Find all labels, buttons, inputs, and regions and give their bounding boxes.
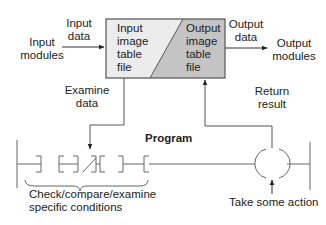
output-modules-line-1: Output bbox=[268, 37, 320, 50]
input-data-line-1: Input bbox=[64, 17, 94, 30]
examine-data-line-1: Examine bbox=[64, 84, 110, 97]
input-image-table-label: Input image table file bbox=[117, 22, 148, 74]
output-table-line-4: file bbox=[186, 61, 221, 74]
input-table-line-4: file bbox=[117, 61, 148, 74]
output-modules-line-2: modules bbox=[268, 50, 320, 63]
output-data-line-2: data bbox=[227, 31, 265, 44]
input-table-line-2: image bbox=[117, 35, 148, 48]
input-modules-line-1: Input bbox=[18, 36, 66, 49]
input-modules-label: Input modules bbox=[18, 36, 66, 62]
return-result-line-1: Return bbox=[252, 85, 292, 98]
normally-closed-slash bbox=[83, 158, 96, 172]
input-table-line-3: table bbox=[117, 48, 148, 61]
return-result-label: Return result bbox=[252, 85, 292, 111]
ladder-rung bbox=[17, 149, 310, 178]
coil-left-arc bbox=[255, 149, 266, 178]
examine-data-line-2: data bbox=[64, 97, 110, 110]
output-table-line-1: Output bbox=[186, 22, 221, 35]
input-data-line-2: data bbox=[64, 30, 94, 43]
output-table-line-3: table bbox=[186, 48, 221, 61]
output-data-label: Output data bbox=[227, 18, 265, 44]
input-modules-line-2: modules bbox=[18, 49, 66, 62]
input-table-line-1: Input bbox=[117, 22, 148, 35]
check-conditions-line-1: Check/compare/examine bbox=[29, 188, 156, 201]
take-action-label: Take some action bbox=[229, 196, 319, 209]
output-data-line-1: Output bbox=[227, 18, 265, 31]
output-image-table-label: Output image table file bbox=[186, 22, 221, 74]
check-conditions-label: Check/compare/examine specific condition… bbox=[29, 188, 156, 214]
program-label: Program bbox=[145, 132, 192, 145]
output-table-line-2: image bbox=[186, 35, 221, 48]
return-result-line-2: result bbox=[252, 98, 292, 111]
check-conditions-line-2: specific conditions bbox=[29, 201, 156, 214]
input-data-label: Input data bbox=[64, 17, 94, 43]
examine-data-label: Examine data bbox=[64, 84, 110, 110]
output-modules-label: Output modules bbox=[268, 37, 320, 63]
